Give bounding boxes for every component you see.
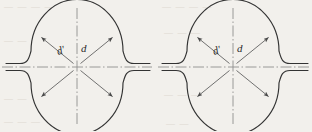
dimension-line-d <box>198 71 230 97</box>
upper-outline <box>6 0 150 64</box>
dimension-label-d: d <box>237 42 243 54</box>
dimension-label-d: d <box>81 42 87 54</box>
dimension-label-d-prime: d′ <box>55 43 67 57</box>
dimension-label-d-prime: d′ <box>211 43 223 57</box>
technical-drawing-canvas: d′ d d′ d <box>0 0 312 131</box>
lower-outline <box>162 71 308 132</box>
left-circular-profile-view: d′ d <box>2 0 152 131</box>
figure-sheet: — — — — — — — — — — — — — — — — — — — — … <box>0 0 312 131</box>
dimension-line-d <box>42 71 74 97</box>
right-circular-profile-view: d′ d <box>158 0 310 131</box>
dimension-line-d-prime <box>81 71 113 97</box>
upper-outline <box>162 0 308 64</box>
dimension-line-d-prime <box>237 71 269 97</box>
lower-outline <box>6 71 150 132</box>
